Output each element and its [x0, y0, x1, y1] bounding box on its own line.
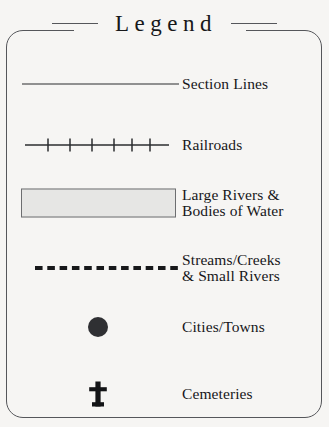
legend-label-line1: Cemeteries [182, 385, 253, 402]
legend-label-line2: Bodies of Water [182, 203, 329, 219]
legend-panel: Legend Section Lines [0, 0, 329, 427]
legend-label-line2: & Small Rivers [182, 268, 329, 284]
dashed-line-icon [35, 266, 178, 270]
legend-symbol-cell [0, 371, 182, 417]
title-rule-right-icon [231, 23, 277, 24]
legend-entry-streams: Streams/Creeks & Small Rivers [0, 245, 329, 291]
legend-symbol-cell [0, 304, 182, 350]
legend-label-line1: Section Lines [182, 75, 268, 92]
legend-symbol-cell [0, 122, 182, 168]
legend-symbol-cell [0, 61, 182, 107]
legend-label-cemeteries: Cemeteries [182, 386, 329, 402]
legend-label-streams: Streams/Creeks & Small Rivers [182, 252, 329, 284]
water-body-rectangle-icon [21, 189, 176, 218]
legend-entry-railroads: Railroads [0, 122, 329, 168]
legend-label-railroads: Railroads [182, 137, 329, 153]
legend-symbol-cell [0, 245, 182, 291]
legend-entry-section-lines: Section Lines [0, 61, 329, 107]
legend-label-line1: Railroads [182, 136, 242, 153]
legend-label-line1: Streams/Creeks [182, 251, 281, 268]
cemetery-cross-icon [84, 381, 112, 407]
legend-entry-large-rivers: Large Rivers & Bodies of Water [0, 180, 329, 226]
solid-line-icon [22, 84, 179, 85]
legend-entry-list: Section Lines Rai [0, 30, 329, 418]
legend-label-line1: Large Rivers & [182, 186, 280, 203]
legend-entry-cemeteries: Cemeteries [0, 371, 329, 417]
railroad-line-icon [25, 136, 169, 154]
legend-label-large-rivers: Large Rivers & Bodies of Water [182, 187, 329, 219]
city-dot-icon [88, 317, 108, 337]
title-rule-left-icon [52, 23, 98, 24]
legend-label-cities: Cities/Towns [182, 319, 329, 335]
legend-label-section-lines: Section Lines [182, 76, 329, 92]
legend-label-line1: Cities/Towns [182, 318, 265, 335]
legend-symbol-cell [0, 180, 182, 226]
legend-entry-cities: Cities/Towns [0, 304, 329, 350]
